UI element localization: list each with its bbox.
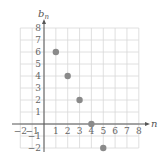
y-tick-label: 7 [35,35,41,45]
x-tick-label: 6 [112,126,118,136]
x-tick-label: 7 [124,126,130,136]
data-point [53,49,59,55]
y-tick-label: −1 [28,131,41,141]
x-axis-arrow-icon [145,122,150,126]
data-point [65,73,71,79]
x-axis-label: n [151,118,157,129]
y-tick-label: 4 [35,71,41,81]
x-tick-label: 8 [136,126,142,136]
y-tick-label: 5 [35,59,41,69]
data-point [100,145,106,151]
y-tick-label: 8 [35,23,41,33]
x-tick-label: 5 [100,126,106,136]
y-axis-label: bn [38,8,49,21]
x-tick-label: 3 [77,126,83,136]
y-tick-label: 3 [35,83,41,93]
y-tick-label: −2 [28,143,41,153]
x-tick-label: 4 [89,126,95,136]
y-tick-label: 1 [35,107,41,117]
scatter-chart: −2−112345678 87654321−1−2 n bn [0,0,162,161]
data-point [76,97,82,103]
x-tick-label: 1 [53,126,59,136]
data-point [88,121,94,127]
x-tick-label: 2 [65,126,71,136]
y-tick-label: 6 [35,47,41,57]
y-tick-label: 2 [35,95,41,105]
